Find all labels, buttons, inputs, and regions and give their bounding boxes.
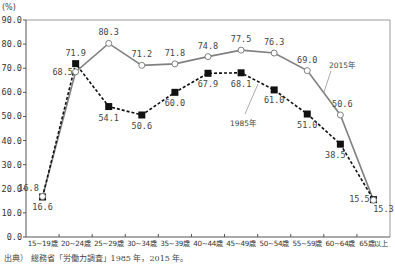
data-point-2015: [205, 54, 211, 60]
data-label-1985: 60.0: [165, 98, 185, 108]
x-tick-label: 20~24歳: [61, 239, 91, 248]
data-label-1985: 61.0: [264, 95, 284, 105]
data-label-2015: 74.8: [198, 41, 218, 51]
data-label-2015: 71.8: [165, 48, 185, 58]
y-tick-label: 90.0: [2, 15, 22, 25]
x-tick-label: 30~34歳: [127, 239, 157, 248]
series-line-2015: [43, 43, 374, 200]
series-label-2015: 2015年: [329, 60, 356, 70]
data-point-1985: [105, 103, 112, 110]
y-tick-label: 70.0: [2, 63, 22, 73]
x-tick-label: 40~44歳: [193, 239, 223, 248]
data-point-2015: [370, 197, 376, 203]
x-tick-label: 55~59歳: [293, 239, 323, 248]
data-point-2015: [40, 193, 46, 199]
y-axis: 0.010.020.030.040.050.060.070.080.090.0: [2, 15, 26, 242]
data-label-2015: 68.5: [52, 67, 72, 77]
y-tick-label: 10.0: [2, 208, 22, 218]
y-tick-label: 60.0: [2, 87, 22, 97]
x-tick-label: 35~39歳: [160, 239, 190, 248]
x-tick-label: 25~29歳: [94, 239, 124, 248]
x-tick-label: 50~54歳: [259, 239, 289, 248]
data-label-2015: 50.6: [332, 99, 352, 109]
x-tick-label: 65歳以上: [359, 239, 388, 248]
series-label-1985: 1985年: [230, 118, 257, 128]
data-point-2015: [73, 69, 79, 75]
y-tick-label: 50.0: [2, 111, 22, 121]
data-label-1985: 51.0: [297, 120, 317, 130]
data-point-2015: [106, 40, 112, 46]
data-point-1985: [171, 89, 178, 96]
data-label-2015: 77.5: [231, 34, 251, 44]
y-tick-label: 80.0: [2, 39, 22, 49]
data-point-1985: [72, 60, 79, 67]
chart: 0.010.020.030.040.050.060.070.080.090.0 …: [0, 0, 395, 265]
source-note: 出典） 総務省「労働力調査」1985 年，2015 年。: [4, 253, 188, 263]
data-point-1985: [337, 141, 344, 148]
data-label-2015: 71.2: [132, 49, 152, 59]
data-label-1985: 71.9: [65, 48, 85, 58]
data-label-2015: 16.8: [18, 183, 38, 193]
data-point-1985: [271, 86, 278, 93]
y-tick-label: 40.0: [2, 136, 22, 146]
data-point-1985: [238, 69, 245, 76]
data-point-2015: [304, 68, 310, 74]
x-tick-label: 15~19歳: [28, 239, 58, 248]
series-annotations: 2015年1985年: [230, 60, 356, 128]
leader-line-2015: [324, 71, 331, 92]
data-point-2015: [238, 47, 244, 53]
series-layer: 16.868.580.371.271.874.877.576.369.050.6…: [18, 27, 393, 214]
data-label-2015: 69.0: [297, 55, 317, 65]
y-axis-unit-label: (%): [2, 3, 16, 12]
x-tick-label: 45~49歳: [226, 239, 256, 248]
data-label-2015: 15.3: [373, 204, 393, 214]
data-label-2015: 76.3: [264, 37, 284, 47]
data-point-1985: [304, 111, 311, 118]
data-label-1985: 15.5: [349, 194, 369, 204]
data-label-1985: 67.9: [198, 79, 218, 89]
data-label-2015: 80.3: [98, 27, 118, 37]
data-label-1985: 16.6: [32, 202, 52, 212]
data-point-2015: [271, 50, 277, 56]
x-axis: 15~19歳20~24歳25~29歳30~34歳35~39歳40~44歳45~4…: [26, 234, 390, 248]
data-point-2015: [337, 112, 343, 118]
data-label-1985: 50.6: [132, 121, 152, 131]
data-point-2015: [172, 61, 178, 67]
data-label-1985: 54.1: [98, 113, 118, 123]
data-point-1985: [138, 111, 145, 118]
x-tick-label: 60~64歳: [326, 239, 356, 248]
data-point-1985: [205, 70, 212, 77]
y-tick-label: 30.0: [2, 160, 22, 170]
data-label-1985: 68.1: [231, 79, 251, 89]
y-tick-label: 0.0: [7, 232, 22, 242]
data-label-1985: 38.5: [325, 150, 345, 160]
data-point-2015: [139, 62, 145, 68]
